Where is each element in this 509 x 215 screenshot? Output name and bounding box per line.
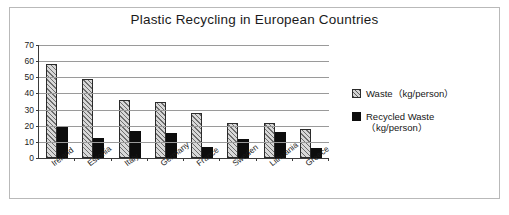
bar-sweden-waste: [227, 123, 238, 159]
x-label-cell: Germany: [147, 160, 183, 200]
x-label-cell: Greece: [292, 160, 328, 200]
y-tick-label-40: 40: [25, 88, 34, 98]
y-tick-mark-10: [36, 142, 39, 143]
bar-greece-waste: [300, 129, 311, 158]
x-label-cell: Lithuania: [256, 160, 292, 200]
gridline-70: [39, 45, 329, 46]
chart-figure: Plastic Recycling in European Countries …: [0, 0, 509, 215]
y-tick-label-70: 70: [25, 40, 34, 50]
legend-item: Waste（kg/person）: [352, 88, 497, 100]
y-tick-mark-70: [36, 45, 39, 46]
x-axis-labels: IrelandEstoniaItalyGermanyFranceSwedenLi…: [38, 160, 328, 200]
gridline-60: [39, 61, 329, 62]
x-label-cell: Sweden: [219, 160, 255, 200]
x-label-cell: France: [183, 160, 219, 200]
chart-title: Plastic Recycling in European Countries: [0, 12, 509, 27]
y-tick-mark-30: [36, 110, 39, 111]
x-label-cell: Estonia: [74, 160, 110, 200]
gridline-50: [39, 77, 329, 78]
chart-legend: Waste（kg/person）Recycled Waste （kg/perso…: [352, 88, 497, 145]
y-tick-mark-50: [36, 77, 39, 78]
bar-estonia-waste: [82, 79, 93, 158]
x-label-cell: Ireland: [38, 160, 74, 200]
y-tick-mark-20: [36, 126, 39, 127]
legend-label: Waste（kg/person）: [366, 88, 454, 100]
bar-lithuania-waste: [264, 123, 275, 159]
legend-item: Recycled Waste （kg/person）: [352, 111, 497, 134]
y-tick-label-30: 30: [25, 105, 34, 115]
y-tick-label-0: 0: [29, 153, 34, 163]
y-tick-label-50: 50: [25, 72, 34, 82]
gridline-30: [39, 110, 329, 111]
bar-ireland-waste: [46, 64, 57, 158]
x-label-cell: Italy: [111, 160, 147, 200]
bar-france-waste: [191, 113, 202, 158]
y-tick-label-60: 60: [25, 56, 34, 66]
hatched-square-icon: [352, 89, 361, 98]
filled-square-icon: [352, 112, 361, 121]
y-tick-mark-60: [36, 61, 39, 62]
gridline-40: [39, 93, 329, 94]
y-tick-mark-0: [36, 158, 39, 159]
legend-label: Recycled Waste （kg/person）: [366, 111, 434, 134]
y-tick-label-20: 20: [25, 121, 34, 131]
y-tick-label-10: 10: [25, 137, 34, 147]
y-tick-mark-40: [36, 93, 39, 94]
gridline-20: [39, 126, 329, 127]
